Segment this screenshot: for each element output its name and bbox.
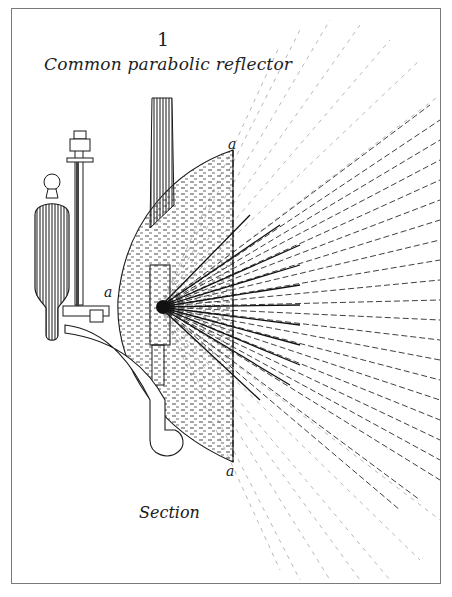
figure-caption: Section [139, 503, 200, 522]
label-a-top: a [228, 136, 236, 152]
reflector-diagram [0, 0, 452, 597]
reservoir-knob [44, 174, 60, 190]
oil-reservoir [35, 204, 69, 341]
valve-flange [67, 158, 93, 162]
reservoir-neck [46, 189, 58, 198]
label-a-bottom: a [226, 463, 234, 479]
label-a-left: a [104, 284, 112, 300]
figure-number: 1 [157, 28, 169, 50]
valve-body [70, 139, 90, 151]
figure-title: Common parabolic reflector [44, 54, 292, 74]
chimney [150, 98, 174, 228]
connector-block [90, 310, 103, 322]
pipe-stem [76, 162, 79, 307]
valve-top [74, 131, 86, 139]
flame-focus [156, 300, 170, 314]
